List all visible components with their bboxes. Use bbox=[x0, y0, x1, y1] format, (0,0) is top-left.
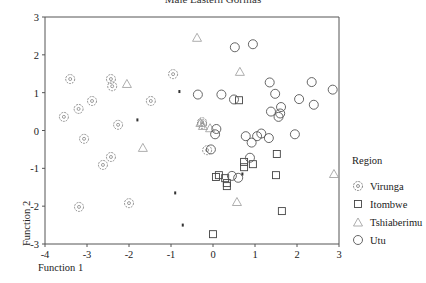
circle-marker bbox=[295, 95, 304, 104]
square-marker bbox=[241, 158, 248, 165]
circle-with-dot-icon bbox=[352, 180, 364, 192]
y-tick-label: 0 bbox=[34, 126, 39, 137]
square-marker bbox=[223, 180, 230, 187]
legend-item-utu: Utu bbox=[352, 231, 422, 249]
data-points bbox=[59, 33, 338, 237]
circle-dot-marker bbox=[75, 202, 84, 211]
inner-dot bbox=[78, 205, 81, 208]
y-axis-title: Function 2 bbox=[21, 201, 32, 246]
y-tick-label: -1 bbox=[30, 163, 39, 174]
circle-marker bbox=[274, 112, 283, 121]
circle-dot-marker bbox=[114, 120, 123, 129]
axes: -4-3-2-10123-3-2-10123 bbox=[30, 12, 341, 260]
y-tick-label: 3 bbox=[34, 12, 39, 23]
triangle-marker bbox=[193, 33, 202, 41]
inner-dot bbox=[149, 99, 152, 102]
square-icon bbox=[352, 198, 364, 210]
square-marker bbox=[210, 231, 217, 238]
circle-marker bbox=[206, 145, 215, 154]
circle-dot-marker bbox=[146, 96, 155, 105]
circle-marker bbox=[241, 132, 250, 141]
x-tick-label: -3 bbox=[83, 249, 92, 260]
circle-marker bbox=[248, 40, 257, 49]
circle-dot-marker bbox=[66, 75, 75, 84]
circle-marker bbox=[217, 90, 226, 99]
circle-dot-marker bbox=[74, 104, 83, 113]
series-unlabeled-small-markers bbox=[136, 90, 243, 227]
inner-dot bbox=[111, 85, 114, 88]
triangle-marker bbox=[329, 170, 338, 178]
inner-dot bbox=[83, 137, 86, 140]
dot-marker bbox=[174, 191, 176, 194]
circle-dot-marker bbox=[59, 112, 68, 121]
x-axis-title: Function 1 bbox=[38, 262, 83, 273]
circle-marker bbox=[230, 43, 239, 52]
circle-marker bbox=[271, 89, 280, 98]
triangle-marker bbox=[235, 67, 244, 75]
legend: Region Virunga Itombwe Tshiaberimu Utu bbox=[352, 155, 422, 249]
circle-marker bbox=[328, 85, 337, 94]
x-tick-label: 1 bbox=[252, 249, 257, 260]
circle-marker bbox=[277, 103, 286, 112]
x-tick-label: -1 bbox=[167, 249, 176, 260]
y-tick-label: 2 bbox=[34, 50, 39, 61]
square-marker bbox=[241, 164, 248, 171]
circle-dot-marker bbox=[169, 70, 178, 79]
circle-marker bbox=[307, 78, 316, 87]
x-tick-label: -2 bbox=[125, 249, 134, 260]
circle-marker bbox=[290, 130, 299, 139]
square-marker bbox=[212, 174, 219, 181]
legend-title: Region bbox=[352, 155, 422, 166]
triangle-marker bbox=[122, 79, 131, 87]
x-tick-label: 3 bbox=[336, 249, 341, 260]
inner-dot bbox=[77, 107, 80, 110]
inner-dot bbox=[117, 123, 120, 126]
square-marker bbox=[273, 150, 280, 157]
legend-label: Utu bbox=[370, 235, 386, 246]
legend-label: Virunga bbox=[370, 181, 404, 192]
legend-item-itombwe: Itombwe bbox=[352, 195, 422, 213]
inner-dot bbox=[109, 78, 112, 81]
inner-dot bbox=[172, 73, 175, 76]
dot-marker bbox=[178, 90, 180, 93]
series-utu bbox=[193, 40, 337, 183]
x-tick-label: -4 bbox=[41, 249, 50, 260]
legend-label: Itombwe bbox=[370, 199, 407, 210]
inner-dot bbox=[69, 78, 72, 81]
dot-marker bbox=[136, 118, 138, 121]
series-virunga bbox=[59, 70, 211, 212]
circle-marker bbox=[230, 95, 239, 104]
circle-dot-marker bbox=[108, 82, 117, 91]
circle-marker bbox=[193, 90, 202, 99]
inner-dot bbox=[101, 163, 104, 166]
square-marker bbox=[223, 183, 230, 190]
circle-dot-marker bbox=[125, 199, 134, 208]
x-tick-label: 2 bbox=[294, 249, 299, 260]
x-tick-label: 0 bbox=[210, 249, 215, 260]
circle-marker bbox=[264, 134, 273, 143]
circle-icon bbox=[352, 234, 364, 246]
triangle-marker bbox=[138, 143, 147, 151]
dot-marker bbox=[241, 173, 243, 176]
square-marker bbox=[273, 172, 280, 179]
legend-label: Tshiaberimu bbox=[370, 217, 422, 228]
inner-dot bbox=[109, 155, 112, 158]
square-marker bbox=[278, 208, 285, 215]
legend-item-tshiaberimu: Tshiaberimu bbox=[352, 213, 422, 231]
legend-item-virunga: Virunga bbox=[352, 177, 422, 195]
circle-dot-marker bbox=[106, 152, 115, 161]
inner-dot bbox=[91, 99, 94, 102]
circle-marker bbox=[234, 173, 243, 182]
inner-dot bbox=[62, 115, 65, 118]
circle-marker bbox=[211, 130, 220, 139]
inner-dot bbox=[128, 202, 131, 205]
circle-dot-marker bbox=[98, 160, 107, 169]
y-tick-label: 1 bbox=[34, 88, 39, 99]
triangle-icon bbox=[352, 216, 364, 228]
dot-marker bbox=[182, 224, 184, 227]
circle-marker bbox=[309, 100, 318, 109]
triangle-marker bbox=[232, 198, 241, 206]
circle-dot-marker bbox=[80, 134, 89, 143]
circle-dot-marker bbox=[88, 96, 97, 105]
circle-marker bbox=[265, 78, 274, 87]
